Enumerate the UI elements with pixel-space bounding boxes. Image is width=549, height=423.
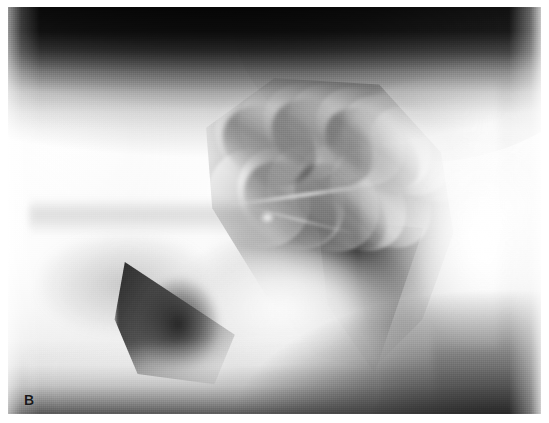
radiograph-image bbox=[8, 7, 541, 414]
radiograph-figure: B bbox=[0, 0, 549, 423]
film-grain-overlay bbox=[8, 7, 541, 414]
panel-label: B bbox=[24, 393, 34, 407]
